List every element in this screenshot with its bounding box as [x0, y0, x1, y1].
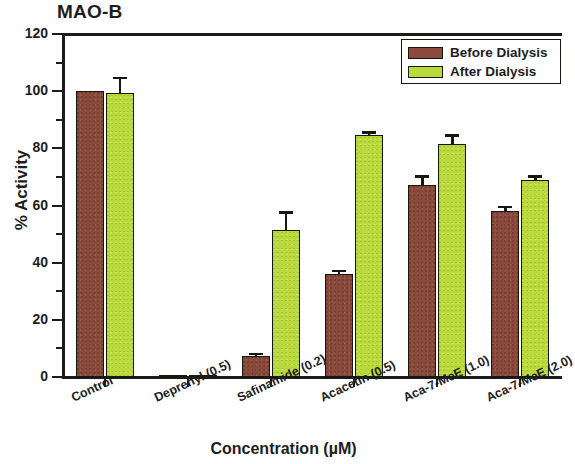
error-bar — [491, 206, 519, 212]
y-tick-minor — [56, 233, 63, 235]
error-bar — [438, 134, 466, 144]
y-tick-label: 20 — [4, 311, 48, 327]
bar — [521, 180, 549, 377]
bar — [438, 144, 466, 377]
legend-swatch-before-dialysis — [408, 47, 443, 59]
error-bar — [325, 270, 353, 274]
error-bar-cap — [445, 134, 459, 137]
y-tick-label: 80 — [4, 139, 48, 155]
error-bar-cap — [498, 206, 512, 209]
bar — [355, 135, 383, 377]
y-tick-minor — [56, 176, 63, 178]
bar — [242, 356, 270, 377]
y-tick-minor — [56, 119, 63, 121]
error-bar-cap — [362, 131, 376, 134]
legend-label-after-dialysis: After Dialysis — [450, 64, 536, 79]
legend-label-before-dialysis: Before Dialysis — [450, 45, 548, 60]
error-bar-stem — [285, 211, 287, 230]
y-tick-minor — [56, 290, 63, 292]
y-tick-major — [52, 262, 63, 264]
y-tick-major — [52, 90, 63, 92]
bar — [106, 93, 134, 377]
y-tick-label: 40 — [4, 254, 48, 270]
bar — [325, 274, 353, 377]
y-tick-minor — [56, 62, 63, 64]
error-bar — [242, 353, 270, 356]
y-tick-label: 100 — [4, 82, 48, 98]
chart-title: MAO-B — [57, 1, 122, 23]
y-tick-label: 120 — [4, 25, 48, 41]
error-bar — [106, 77, 134, 93]
error-bar — [355, 131, 383, 135]
error-bar-cap — [415, 175, 429, 178]
y-axis-group: % Activity — [0, 0, 50, 464]
error-bar-cap — [249, 353, 263, 356]
error-bar — [408, 175, 436, 185]
legend-item-before-dialysis: Before Dialysis — [408, 43, 555, 62]
bar — [272, 230, 300, 377]
error-bar-cap — [332, 270, 346, 273]
legend-swatch-after-dialysis — [408, 66, 443, 78]
chart-legend: Before Dialysis After Dialysis — [401, 39, 561, 84]
y-tick-major — [52, 376, 63, 378]
y-tick-major — [52, 205, 63, 207]
x-axis-title: Concentration (µM) — [0, 440, 567, 458]
y-tick-label: 60 — [4, 197, 48, 213]
y-tick-label: 0 — [4, 368, 48, 384]
error-bar-cap — [528, 175, 542, 178]
y-tick-major — [52, 147, 63, 149]
plot-area — [63, 34, 562, 377]
y-tick-minor — [56, 347, 63, 349]
error-bar-cap — [113, 77, 127, 80]
error-bar — [272, 211, 300, 230]
y-tick-major — [52, 33, 63, 35]
bar — [491, 211, 519, 377]
error-bar — [521, 175, 549, 179]
bar — [76, 91, 104, 377]
y-tick-major — [52, 319, 63, 321]
legend-item-after-dialysis: After Dialysis — [408, 62, 555, 81]
error-bar-cap — [279, 211, 293, 214]
bar — [408, 185, 436, 377]
